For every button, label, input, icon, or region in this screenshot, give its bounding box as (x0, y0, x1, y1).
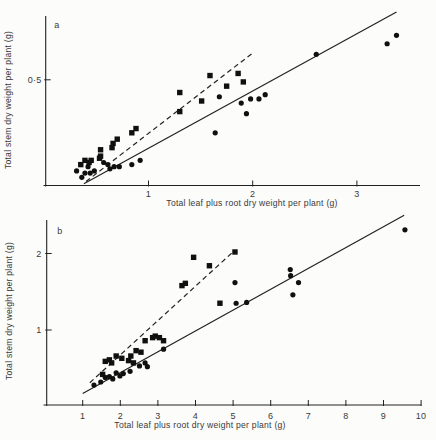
data-point-circle (244, 111, 249, 116)
panel-label: a (54, 20, 59, 30)
data-point-circle (385, 41, 390, 46)
data-point-circle (248, 96, 253, 101)
data-point-square (133, 348, 138, 353)
x-tick-label: 8 (343, 411, 348, 421)
data-point-square (109, 360, 114, 365)
data-point-circle (110, 376, 115, 381)
x-axis-title: Total leaf plus root dry weight per plan… (114, 420, 285, 430)
data-point-circle (127, 369, 132, 374)
data-point-square (131, 360, 136, 365)
data-point-square (128, 353, 133, 358)
data-point-square (100, 372, 105, 377)
data-point-square (183, 281, 188, 286)
y-axis-title: Total stem dry weight per plant (g) (3, 31, 13, 169)
data-point-circle (232, 280, 237, 285)
data-point-circle (234, 301, 239, 306)
x-tick-label: 3 (354, 189, 359, 199)
data-point-circle (288, 267, 293, 272)
data-point-square (232, 249, 237, 254)
data-point-square (113, 353, 118, 358)
data-point-circle (314, 52, 319, 57)
data-point-circle (161, 347, 166, 352)
data-point-circle (79, 175, 84, 180)
data-point-square (241, 79, 246, 84)
y-tick-label: 2 (36, 249, 41, 259)
data-point-circle (112, 164, 117, 169)
data-point-circle (82, 170, 87, 175)
data-point-circle (129, 162, 134, 167)
data-point-circle (296, 280, 301, 285)
data-point-circle (263, 92, 268, 97)
data-point-circle (91, 382, 96, 387)
data-point-square (142, 338, 147, 343)
data-point-square (207, 73, 212, 78)
data-point-circle (256, 96, 261, 101)
data-point-square (177, 90, 182, 95)
data-point-square (177, 109, 182, 114)
x-tick-label: 9 (381, 411, 386, 421)
y-tick-label: 1 (36, 325, 41, 335)
data-point-square (119, 356, 124, 361)
x-axis-title: Total leaf plus root dry weight per plan… (166, 198, 337, 208)
x-tick-label: 1 (80, 411, 85, 421)
panel-label: b (57, 226, 62, 236)
data-point-circle (288, 273, 293, 278)
fit-line-dashed (86, 52, 254, 181)
x-tick-label: 7 (306, 411, 311, 421)
fit-line-solid (83, 215, 404, 393)
data-point-circle (117, 164, 122, 169)
data-point-square (115, 136, 120, 141)
data-point-circle (239, 101, 244, 106)
y-tick-label: 0·5 (28, 75, 42, 85)
data-point-circle (244, 300, 249, 305)
data-point-square (235, 71, 240, 76)
data-point-circle (138, 158, 143, 163)
data-point-circle (290, 292, 295, 297)
y-axis-title: Total stem dry weight per plant (g) (4, 242, 14, 380)
data-point-square (133, 126, 138, 131)
data-point-square (98, 147, 103, 152)
data-point-circle (217, 94, 222, 99)
x-tick-label: 1 (146, 189, 151, 199)
fit-line-solid (84, 12, 397, 184)
data-point-square (224, 83, 229, 88)
data-point-circle (394, 33, 399, 38)
data-point-square (191, 255, 196, 260)
data-point-circle (121, 371, 126, 376)
data-point-circle (92, 168, 97, 173)
data-point-square (88, 158, 93, 163)
x-tick-label: 10 (416, 411, 427, 421)
data-point-square (98, 153, 103, 158)
data-point-circle (98, 379, 103, 384)
data-point-circle (145, 364, 150, 369)
data-point-circle (213, 130, 218, 135)
data-point-circle (74, 168, 79, 173)
data-point-square (217, 301, 222, 306)
data-point-circle (402, 227, 407, 232)
data-point-square (207, 263, 212, 268)
data-point-square (199, 98, 204, 103)
scatter-plots-canvas: 1230·5Total leaf plus root dry weight pe… (0, 0, 436, 440)
data-point-square (161, 338, 166, 343)
data-point-circle (137, 363, 142, 368)
dual-scatter-figure: 1230·5Total leaf plus root dry weight pe… (0, 0, 436, 440)
data-point-square (138, 349, 143, 354)
